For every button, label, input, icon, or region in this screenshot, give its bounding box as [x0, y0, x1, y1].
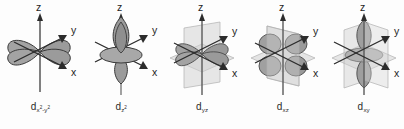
axis-label-y: y — [313, 25, 319, 37]
axis-z-arrowhead — [361, 13, 367, 21]
axis-label-z: z — [36, 1, 41, 13]
axis-label-y: y — [152, 24, 158, 36]
axis-z-arrowhead — [280, 13, 286, 21]
orbital-diagram-dxy: z y x — [324, 0, 404, 100]
orbital-label-dxz: dxz — [242, 101, 323, 112]
lobe-group-dz2 — [100, 17, 142, 84]
orbital-label-sup1: 2 — [40, 105, 43, 110]
orbital-label-sub-main: xy — [363, 106, 369, 113]
orbital-label-sup1: 2 — [124, 105, 127, 110]
axis-label-x: x — [394, 67, 400, 79]
d-orbitals-figure: z y x dx2-y2 — [0, 0, 404, 129]
axis-label-z: z — [279, 1, 284, 13]
axis-label-y: y — [394, 25, 400, 37]
node-plane-vertical-right — [364, 22, 388, 88]
orbital-label-dxy: dxy — [323, 101, 404, 112]
axis-label-z: z — [360, 1, 365, 13]
orbital-cell-dx2-y2: z y x dx2-y2 — [0, 0, 81, 129]
orbital-label-sub-main: xz — [283, 106, 289, 113]
orbital-label-sub-main: yz — [202, 106, 208, 113]
orbital-label-base: d — [196, 101, 202, 112]
orbital-cell-dxz: z y x dxz — [242, 0, 323, 129]
axis-z-arrowhead — [199, 13, 205, 21]
orbital-cell-dxy: z y x dxy — [323, 0, 404, 129]
orbital-cell-dz2: z y x dz2 — [81, 0, 162, 129]
orbital-label-dx2-y2: dx2-y2 — [0, 101, 81, 112]
axis-label-z: z — [117, 1, 122, 13]
orbital-diagram-dxz: z y x — [243, 0, 323, 100]
axis-label-z: z — [198, 1, 203, 13]
orbital-diagram-dx2-y2: z y x — [0, 0, 80, 100]
orbital-label-sup2: 2 — [47, 105, 50, 110]
orbital-diagram-dz2: z y x — [81, 0, 161, 100]
axis-label-x: x — [232, 67, 238, 79]
axis-label-x: x — [71, 66, 77, 78]
orbital-cell-dyz: z y x dyz — [162, 0, 243, 129]
axis-label-y: y — [71, 24, 77, 36]
axis-label-x: x — [313, 67, 319, 79]
axis-label-y: y — [232, 25, 238, 37]
axis-label-x: x — [152, 66, 158, 78]
orbital-label-dyz: dyz — [162, 101, 243, 112]
orbital-diagram-dyz: z y x — [162, 0, 242, 100]
axis-z-arrowhead — [37, 13, 43, 21]
orbital-label-base: d — [277, 101, 283, 112]
orbital-label-dz2: dz2 — [81, 101, 162, 112]
